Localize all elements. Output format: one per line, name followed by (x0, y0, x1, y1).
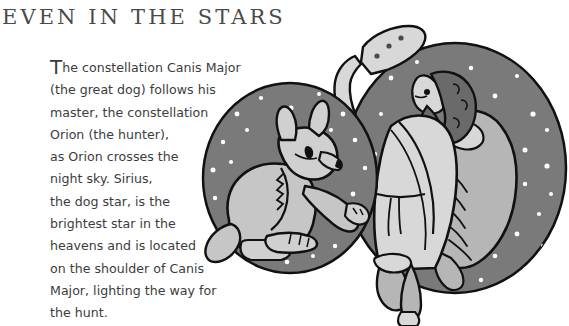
orion-knee-wrap (374, 254, 411, 273)
canis-major-and-orion-illustration (195, 18, 569, 326)
drop-cap: T (50, 55, 62, 79)
orion-foot (398, 312, 419, 326)
orion-tunic (374, 115, 456, 270)
page-root: EVEN IN THE STARS The constellation Cani… (0, 0, 569, 326)
dog-tail (205, 224, 240, 262)
